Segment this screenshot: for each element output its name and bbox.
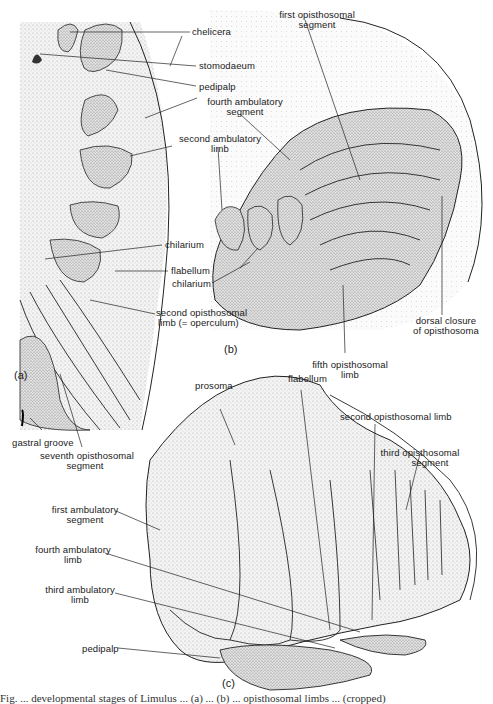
label-third-ambulatory-limb-2: limb (40, 595, 120, 605)
label-pedipalp-a: pedipalp (199, 82, 236, 92)
label-fourth-ambulatory-limb-2: limb (28, 555, 118, 565)
panel-label-b: (b) (224, 343, 237, 355)
label-third-opisthosomal-2: segment (395, 458, 465, 468)
label-second-ambulatory-limb-2: limb (175, 144, 265, 154)
label-chilarium-a: chilarium (165, 240, 204, 250)
label-dorsal-closure-2: of opisthosoma (406, 326, 486, 336)
label-first-opisthosomal-2: segment (262, 20, 372, 30)
panel-c-drawing (146, 376, 477, 690)
label-prosoma: prosoma (195, 381, 233, 391)
panel-a-drawing (20, 22, 169, 430)
label-first-ambulatory-2: segment (40, 515, 130, 525)
panel-b-drawing (210, 10, 483, 330)
label-second-opisthosomal-limb-a-2: limb (= operculum) (158, 318, 239, 328)
label-chelicera: chelicera (192, 27, 231, 37)
label-second-opisthosomal-limb-c: second opisthosomal limb (340, 412, 452, 422)
panel-label-a: (a) (14, 369, 27, 381)
figure-caption-cropped: Fig. ... developmental stages of Limulus… (0, 692, 493, 704)
label-chilarium-b: chilarium (172, 279, 211, 289)
label-stomodaeum: stomodaeum (199, 61, 255, 71)
label-seventh-opisthosomal-2: segment (40, 461, 130, 471)
label-gastral-groove: gastral groove (12, 438, 74, 448)
label-flabellum-a: flabellum (171, 266, 210, 276)
label-pedipalp-c: pedipalp (82, 644, 119, 654)
panel-label-c: (c) (222, 677, 235, 689)
label-fourth-ambulatory-segment-2: segment (200, 107, 290, 117)
label-flabellum-c: flabellum (288, 374, 327, 384)
